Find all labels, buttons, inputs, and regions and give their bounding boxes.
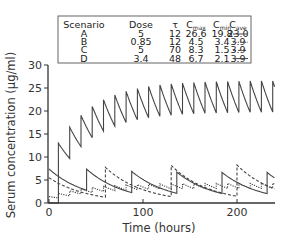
x-axis-label: Time (hours) [121, 221, 195, 235]
x-tick-label: 0 [46, 206, 53, 219]
y-axis-label: Serum concentration (µg/ml) [4, 52, 18, 218]
series-line-B [49, 183, 275, 198]
y-tick-label: 30 [28, 59, 42, 72]
y-tick-label: 15 [28, 128, 42, 141]
series-line-D [49, 169, 275, 194]
x-tick-label: 200 [227, 206, 248, 219]
y-tick-label: 20 [28, 105, 42, 118]
x-ticks: 0100200 [46, 199, 248, 219]
y-tick-label: 25 [28, 82, 42, 95]
legend-cell-cmax: 6.7 [188, 53, 203, 64]
y-tick-label: 0 [35, 197, 42, 210]
concentration-time-chart: 051015202530 0100200 Time (hours) Serum … [0, 0, 292, 246]
legend-cell-cmin: 2.1 [214, 53, 229, 64]
x-tick-label: 100 [133, 206, 154, 219]
y-tick-label: 10 [28, 151, 42, 164]
legend-cell-dose: 3.4 [133, 53, 148, 64]
y-ticks: 051015202530 [28, 59, 48, 210]
legend-cell-tau: 48 [169, 53, 181, 64]
legend-table: ScenarioDoseτCmaxCminCaveA51226.619.823.… [58, 16, 251, 64]
legend-cell-scenario: D [80, 53, 87, 64]
y-tick-label: 5 [35, 174, 42, 187]
series-line-C [49, 165, 275, 197]
series-lines [49, 81, 275, 203]
